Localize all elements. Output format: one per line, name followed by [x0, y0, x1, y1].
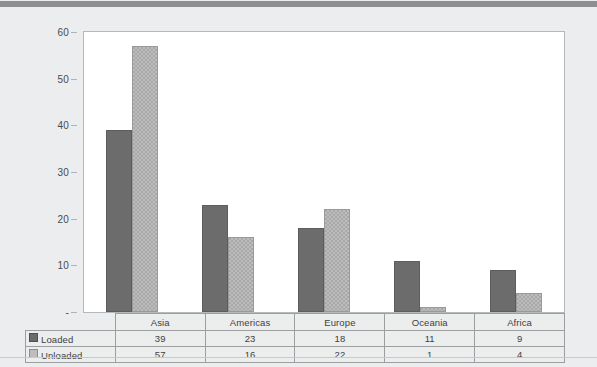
- bar-loaded-africa: [490, 270, 516, 312]
- y-axis-tick-label-60: 60: [57, 27, 69, 38]
- table-cell-unloaded-oceania: 1: [385, 347, 475, 363]
- table-corner-cell: [26, 314, 116, 331]
- chart-card: -102030405060 AsiaAmericasEuropeOceaniaA…: [0, 8, 597, 357]
- table-header-asia: Asia: [115, 314, 205, 331]
- table-cell-loaded-asia: 39: [115, 331, 205, 347]
- table-cell-unloaded-europe: 22: [295, 347, 385, 363]
- bar-unloaded-europe: [324, 209, 350, 312]
- table-cell-unloaded-africa: 4: [475, 347, 565, 363]
- table-row: Unloaded57162214: [26, 347, 565, 363]
- bar-loaded-asia: [106, 130, 132, 312]
- y-axis-tick-mark-40: [71, 125, 77, 126]
- table-header-americas: Americas: [205, 314, 295, 331]
- y-axis-tick-label-50: 50: [57, 73, 69, 84]
- table-header-europe: Europe: [295, 314, 385, 331]
- bar-unloaded-oceania: [420, 307, 446, 312]
- bar-unloaded-americas: [228, 237, 254, 312]
- table-cell-loaded-americas: 23: [205, 331, 295, 347]
- legend-cell-unloaded: Unloaded: [26, 347, 116, 363]
- table-cell-loaded-africa: 9: [475, 331, 565, 347]
- data-table: AsiaAmericasEuropeOceaniaAfricaLoaded392…: [25, 313, 565, 363]
- table-cell-loaded-europe: 18: [295, 331, 385, 347]
- table-row: Loaded392318119: [26, 331, 565, 347]
- y-axis: -102030405060: [0, 31, 83, 314]
- bar-loaded-americas: [202, 205, 228, 312]
- bar-unloaded-africa: [516, 293, 542, 312]
- y-axis-tick-mark-20: [71, 219, 77, 220]
- y-axis-tick-mark-10: [71, 265, 77, 266]
- data-table-body: AsiaAmericasEuropeOceaniaAfricaLoaded392…: [26, 314, 565, 363]
- y-axis-tick-mark-30: [71, 172, 77, 173]
- bottom-rule: [0, 357, 597, 358]
- y-axis-tick-mark-60: [71, 32, 77, 33]
- bar-loaded-oceania: [394, 261, 420, 312]
- table-header-oceania: Oceania: [385, 314, 475, 331]
- table-cell-unloaded-americas: 16: [205, 347, 295, 363]
- y-axis-tick-label-20: 20: [57, 213, 69, 224]
- legend-label-unloaded: Unloaded: [41, 349, 82, 360]
- bar-unloaded-asia: [132, 46, 158, 312]
- y-axis-tick-label-30: 30: [57, 167, 69, 178]
- y-axis-tick-label-40: 40: [57, 120, 69, 131]
- table-cell-loaded-oceania: 11: [385, 331, 475, 347]
- y-axis-tick-mark-50: [71, 79, 77, 80]
- table-header-africa: Africa: [475, 314, 565, 331]
- table-header-row: AsiaAmericasEuropeOceaniaAfrica: [26, 314, 565, 331]
- y-axis-tick-label-10: 10: [57, 260, 69, 271]
- top-decorative-band: [0, 1, 597, 7]
- bars-container: [84, 32, 564, 312]
- table-cell-unloaded-asia: 57: [115, 347, 205, 363]
- legend-cell-loaded: Loaded: [26, 331, 116, 347]
- legend-label-loaded: Loaded: [41, 333, 73, 344]
- bar-loaded-europe: [298, 228, 324, 312]
- plot-area: [83, 31, 565, 313]
- dark-square-icon: [29, 333, 38, 342]
